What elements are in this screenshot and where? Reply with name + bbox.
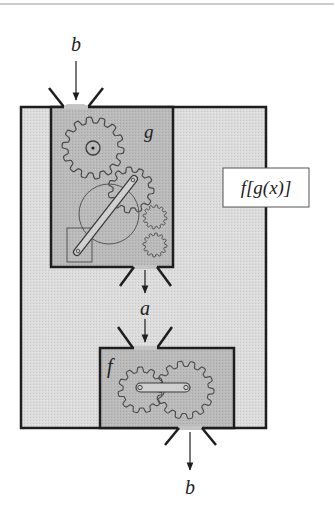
output-label: b bbox=[185, 476, 195, 498]
f-output-funnel-left bbox=[165, 428, 179, 445]
g-machine-label: g bbox=[144, 121, 154, 142]
f-output-funnel-right bbox=[202, 428, 216, 445]
intermediate-label: a bbox=[140, 297, 150, 319]
g-output-opening bbox=[133, 265, 157, 269]
input-funnel-right bbox=[88, 88, 103, 107]
g-machine: g bbox=[49, 88, 173, 286]
f-input-opening bbox=[134, 346, 157, 350]
input-opening bbox=[64, 105, 88, 109]
input-label: b bbox=[71, 33, 81, 55]
composition-diagram: g b a f b f[g(x)] bbox=[0, 0, 334, 521]
f-connecting-rod-icon bbox=[136, 383, 190, 392]
input-funnel-left bbox=[49, 88, 64, 107]
composition-label-box: f[g(x)] bbox=[223, 168, 309, 207]
large-gear-axle-icon bbox=[91, 146, 94, 149]
composition-label: f[g(x)] bbox=[241, 177, 292, 199]
f-output-opening bbox=[178, 426, 202, 430]
